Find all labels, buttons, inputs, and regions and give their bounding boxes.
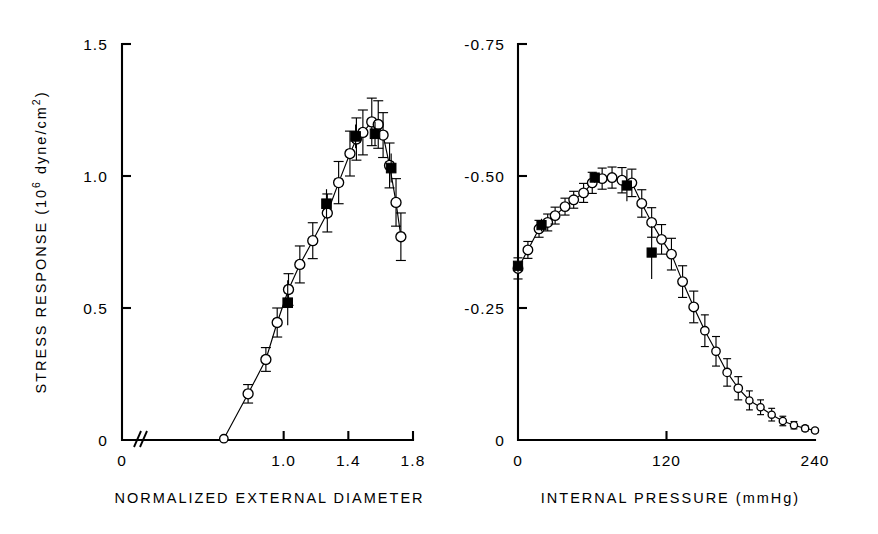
- data-point-open: [334, 161, 344, 203]
- y-axis-label: NORMALIZED DIAMETER RESPONSE: [440, 85, 441, 400]
- data-point-open: [657, 225, 667, 255]
- stress-response-plot: 00.51.01.501.01.41.8NORMALIZED EXTERNAL …: [0, 0, 440, 534]
- data-point-filled: [537, 219, 546, 232]
- x-tick-label-120: 120: [652, 452, 681, 469]
- left-axes-group: [122, 44, 413, 447]
- x-axis-label: NORMALIZED EXTERNAL DIAMETER: [114, 490, 424, 506]
- data-point-open: [746, 391, 753, 410]
- data-point-open: [579, 183, 589, 202]
- y-tick-label--0.75: -0.75: [464, 36, 505, 53]
- y-tick-label-0: 0: [98, 432, 108, 449]
- right-axes-group: [518, 44, 815, 440]
- data-point-open: [667, 238, 677, 270]
- x-tick-label-0: 0: [117, 452, 127, 469]
- right-data-group: [513, 167, 818, 434]
- y-tick-label--0.50: -0.50: [464, 168, 505, 185]
- data-point-filled: [590, 172, 599, 183]
- data-point-open: [295, 246, 305, 283]
- data-point-open: [712, 337, 720, 367]
- data-point-open: [757, 400, 764, 415]
- y-tick-label-0: 0: [495, 432, 505, 449]
- data-point-open: [768, 408, 775, 421]
- data-point-open: [790, 422, 797, 429]
- data-point-filled: [647, 226, 656, 279]
- data-point-open: [308, 223, 318, 259]
- x-tick-label-1.0: 1.0: [271, 452, 296, 469]
- y-tick-label-0.5: 0.5: [83, 300, 108, 317]
- left-axis-spines: [122, 44, 413, 440]
- stress-response-panel: 00.51.01.501.01.41.8NORMALIZED EXTERNAL …: [0, 0, 440, 534]
- data-point-open: [220, 434, 228, 442]
- x-tick-label-1.8: 1.8: [401, 452, 426, 469]
- data-point-filled: [351, 125, 361, 149]
- data-point-open: [261, 348, 271, 372]
- left-data-group: [220, 98, 406, 443]
- data-point-open: [734, 377, 742, 400]
- y-tick-label-1.0: 1.0: [83, 168, 108, 185]
- x-tick-label-1.4: 1.4: [336, 452, 361, 469]
- data-point-open: [637, 190, 647, 217]
- data-point-open: [701, 315, 709, 347]
- y-tick-label-1.5: 1.5: [83, 36, 108, 53]
- data-point-open: [689, 291, 699, 323]
- data-point-open: [391, 179, 401, 227]
- left-text-group: 00.51.01.501.01.41.8NORMALIZED EXTERNAL …: [30, 36, 425, 506]
- data-point-open: [802, 425, 809, 432]
- diameter-response-plot: 0-0.25-0.50-0.750120240INTERNAL PRESSURE…: [440, 0, 878, 534]
- data-point-open: [723, 359, 731, 386]
- data-point-open: [678, 266, 688, 298]
- y-tick-label--0.25: -0.25: [464, 300, 505, 317]
- data-point-open: [396, 213, 406, 261]
- data-point-open: [811, 427, 818, 434]
- data-point-open: [779, 416, 786, 426]
- data-point-filled: [513, 259, 522, 272]
- figure-container: 00.51.01.501.01.41.8NORMALIZED EXTERNAL …: [0, 0, 878, 534]
- x-tick-label-0: 0: [513, 452, 523, 469]
- right-text-group: 0-0.25-0.50-0.750120240INTERNAL PRESSURE…: [440, 36, 830, 506]
- x-tick-label-240: 240: [800, 452, 829, 469]
- diameter-response-panel: 0-0.25-0.50-0.750120240INTERNAL PRESSURE…: [440, 0, 878, 534]
- data-point-open: [607, 167, 617, 188]
- x-axis-label: INTERNAL PRESSURE (mmHg): [541, 490, 800, 506]
- y-axis-label: STRESS RESPONSE (106 dyne/cm2): [30, 91, 49, 394]
- right-axis-spines: [518, 44, 815, 440]
